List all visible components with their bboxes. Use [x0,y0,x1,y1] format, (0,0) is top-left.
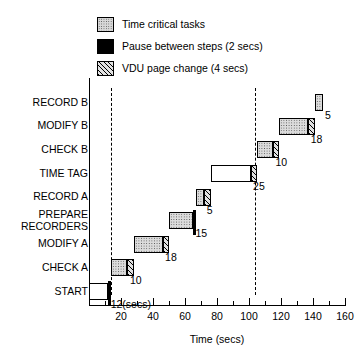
segment-vdu-2 [163,236,169,253]
y-axis-label-time-tag: TIME TAG [39,168,88,180]
segment-vdu-5 [273,141,279,158]
x-axis-major-tick [185,298,186,305]
legend: Time critical tasksPause between steps (… [97,16,337,82]
segment-pause-2 [193,210,196,235]
x-axis-major-tick [345,298,346,305]
segment-check-b [257,141,273,158]
y-axis-label-prepare-recorders: PREPARERECORDERS [21,209,88,232]
x-axis-minor-tick [201,301,202,305]
x-axis-title: Time (secs) [157,333,277,345]
y-axis-label-modify-b: MODIFY B [37,120,88,132]
segment-record-b [315,94,323,111]
legend-item-label: Pause between steps (2 secs) [122,41,263,52]
duration-label: 15 [196,227,208,239]
y-axis-label-line: MODIFY A [38,237,88,249]
y-axis-label-check-a: CHECK A [42,262,88,274]
x-axis-minor-tick [169,301,170,305]
x-axis-major-tick [281,298,282,305]
x-axis-minor-tick [265,301,266,305]
y-axis-label-start: START [55,286,88,298]
segment-pause-1 [108,281,111,306]
y-axis-label-line: RECORDERS [21,220,88,232]
segment-start [89,283,108,300]
x-axis-major-tick [153,298,154,305]
y-axis-line [89,78,90,305]
segment-modify-b [279,118,308,135]
x-axis-major-tick [313,298,314,305]
y-axis-label-line: START [55,285,88,297]
y-axis-label-modify-a: MODIFY A [38,238,88,250]
pause-swatch [97,39,114,54]
x-tick-label: 40 [138,310,168,322]
segment-time-tag [211,165,251,182]
x-tick-label: 140 [298,310,328,322]
y-axis-label-line: CHECK A [42,261,88,273]
segment-vdu-3 [204,189,210,206]
y-axis-label-line: TIME TAG [39,167,88,179]
legend-item-2: Pause between steps (2 secs) [97,38,337,55]
segment-vdu-1 [127,259,133,276]
y-axis-label-line: RECORD B [33,96,88,108]
x-tick-label: 160 [330,310,360,322]
legend-item-1: Time critical tasks [97,16,337,33]
y-axis-label-record-b: RECORD B [33,97,88,109]
time-critical-swatch [97,17,114,32]
y-axis-label-line: RECORD A [33,190,88,202]
x-tick-label: 20 [106,310,136,322]
y-axis-label-line: CHECK B [41,143,88,155]
legend-item-label: VDU page change (4 secs) [122,63,248,74]
x-axis-minor-tick [297,301,298,305]
segment-modify-a [134,236,163,253]
x-tick-label: 80 [202,310,232,322]
x-axis-major-tick [249,298,250,305]
segment-vdu-4 [251,165,257,182]
segment-check-a [111,259,127,276]
segment-record-a [196,189,204,206]
y-axis-label-line: PREPARE [39,208,88,220]
x-axis-minor-tick [329,301,330,305]
y-axis-label-check-b: CHECK B [41,144,88,156]
y-axis-label-line: MODIFY B [37,119,88,131]
x-axis-minor-tick [233,301,234,305]
y-axis-label-record-a: RECORD A [33,191,88,203]
vdu-change-swatch [97,61,114,76]
gantt-staircase-chart: Time critical tasksPause between steps (… [0,0,364,354]
duration-label: 5 [325,109,331,121]
x-axis-major-tick [217,298,218,305]
legend-item-3: VDU page change (4 secs) [97,60,337,77]
x-axis-minor-tick [105,301,106,305]
duration-label: 12(secs) [111,298,151,310]
x-tick-label: 120 [266,310,296,322]
x-tick-label: 100 [234,310,264,322]
legend-item-label: Time critical tasks [122,19,205,30]
segment-vdu-6 [308,118,314,135]
x-tick-label: 60 [170,310,200,322]
segment-prepare-recorders [169,212,193,229]
